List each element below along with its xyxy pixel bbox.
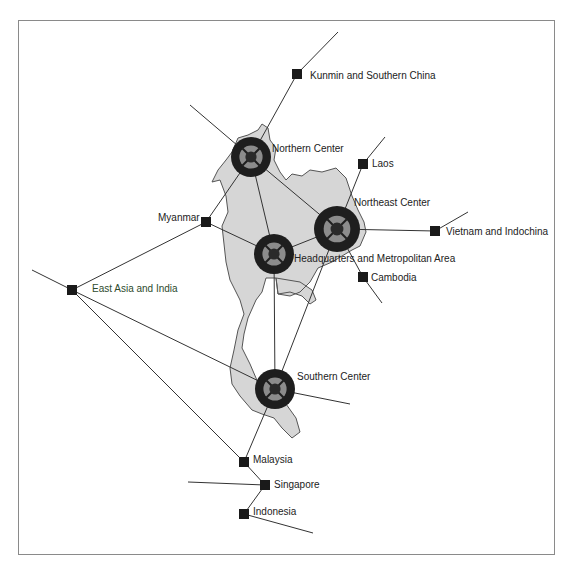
hub-northern-label: Northern Center: [272, 143, 344, 154]
node-cambodia-square-icon[interactable]: [358, 272, 368, 282]
node-kunming-label: Kunmin and Southern China: [310, 70, 436, 81]
hub-core-icon: [268, 248, 279, 259]
node-vietnam-label: Vietnam and Indochina: [446, 226, 549, 237]
node-laos-label: Laos: [372, 158, 394, 169]
connection-line: [72, 222, 206, 290]
node-labels: Kunmin and Southern ChinaLaosMyanmarViet…: [92, 70, 549, 517]
hub-southern-label: Southern Center: [297, 371, 371, 382]
connection-line: [32, 270, 72, 290]
connection-line: [297, 32, 338, 74]
hub-hq[interactable]: [254, 234, 294, 274]
node-vietnam-square-icon[interactable]: [430, 226, 440, 236]
node-singapore-label: Singapore: [274, 479, 320, 490]
node-eastasia-square-icon[interactable]: [67, 285, 77, 295]
connection-line: [188, 482, 265, 485]
node-malaysia-label: Malaysia: [253, 454, 293, 465]
node-cambodia-label: Cambodia: [371, 272, 417, 283]
node-laos-square-icon[interactable]: [358, 159, 368, 169]
hub-core-icon: [269, 383, 280, 394]
hub-northern[interactable]: [231, 137, 271, 177]
node-indonesia-square-icon[interactable]: [239, 509, 249, 519]
hub-core-icon: [331, 223, 344, 236]
connection-line: [72, 290, 244, 462]
node-kunming-square-icon[interactable]: [292, 69, 302, 79]
node-eastasia-label: East Asia and India: [92, 283, 178, 294]
hub-core-icon: [245, 151, 256, 162]
hub-northeast[interactable]: [314, 206, 360, 252]
node-indonesia-label: Indonesia: [253, 506, 297, 517]
network-map: Kunmin and Southern ChinaLaosMyanmarViet…: [0, 0, 575, 573]
node-myanmar-label: Myanmar: [158, 212, 200, 223]
hub-hq-label: Headquarters and Metropolitan Area: [294, 253, 456, 264]
hub-northeast-label: Northeast Center: [354, 197, 431, 208]
node-malaysia-square-icon[interactable]: [239, 457, 249, 467]
node-myanmar-square-icon[interactable]: [201, 217, 211, 227]
node-singapore-square-icon[interactable]: [260, 480, 270, 490]
hub-southern[interactable]: [255, 369, 295, 409]
